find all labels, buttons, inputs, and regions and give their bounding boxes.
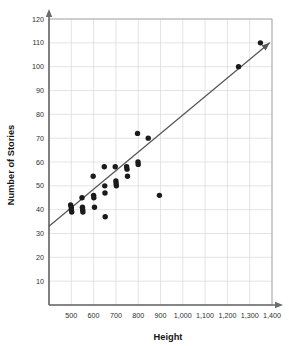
- x-tick-labels: 5006007008009001,0001,1001,2001,3001,400: [65, 311, 281, 320]
- y-tick-label: 40: [36, 205, 44, 214]
- x-tick-label: 900: [155, 311, 167, 320]
- data-point: [258, 40, 263, 45]
- y-tick-label: 80: [36, 110, 44, 119]
- x-tick-label: 1,400: [263, 311, 281, 320]
- axis-arrows: [46, 9, 283, 308]
- data-point: [102, 183, 107, 188]
- x-tick-label: 1,300: [241, 311, 259, 320]
- data-point: [236, 64, 241, 69]
- y-tick-label: 120: [32, 15, 44, 24]
- data-point: [157, 193, 162, 198]
- data-point: [136, 162, 141, 167]
- y-tick-labels: 102030405060708090100110120: [32, 15, 44, 286]
- y-tick-label: 110: [33, 38, 44, 47]
- data-point: [113, 164, 118, 169]
- y-tick-label: 20: [36, 253, 44, 262]
- x-tick-label: 1,100: [196, 311, 214, 320]
- y-tick-label: 70: [36, 134, 44, 143]
- data-point: [135, 131, 140, 136]
- x-tick-label: 1,200: [218, 311, 236, 320]
- chart-canvas: 5006007008009001,0001,1001,2001,3001,400…: [0, 0, 289, 346]
- y-tick-label: 60: [36, 158, 44, 167]
- y-axis-arrowhead: [46, 9, 52, 17]
- gridlines: [49, 19, 272, 305]
- data-point: [114, 183, 119, 188]
- y-tick-label: 100: [32, 62, 44, 71]
- x-tick-label: 700: [110, 311, 122, 320]
- x-tick-label: 800: [132, 311, 144, 320]
- data-point: [102, 214, 107, 219]
- x-tick-label: 1,000: [174, 311, 192, 320]
- data-point: [146, 135, 151, 140]
- x-axis-title: Height: [154, 332, 183, 342]
- data-point: [91, 195, 96, 200]
- y-tick-label: 90: [36, 86, 44, 95]
- y-tick-label: 10: [36, 277, 44, 286]
- data-point: [90, 174, 95, 179]
- y-tick-label: 30: [36, 229, 44, 238]
- x-tick-label: 600: [88, 311, 100, 320]
- y-axis-title: Number of Stories: [6, 125, 16, 206]
- data-point: [125, 174, 130, 179]
- x-tick-label: 500: [65, 311, 77, 320]
- data-point: [124, 166, 129, 171]
- scatter-plot-figure: 5006007008009001,0001,1001,2001,3001,400…: [0, 0, 289, 346]
- data-point: [102, 164, 107, 169]
- data-point: [69, 209, 74, 214]
- x-axis-arrowhead: [275, 302, 283, 308]
- data-point: [80, 209, 85, 214]
- data-point: [102, 190, 107, 195]
- data-point: [92, 205, 97, 210]
- y-tick-label: 50: [36, 181, 44, 190]
- data-point: [79, 195, 84, 200]
